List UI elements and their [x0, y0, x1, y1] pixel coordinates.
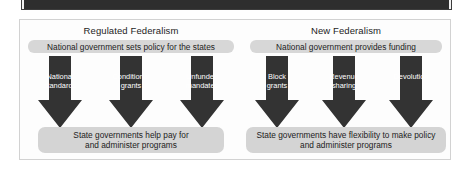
- arrow-revenue-sharing: Revenue sharing: [322, 56, 366, 128]
- top-dark-band-fill: [24, 0, 449, 9]
- diagram-page: Regulated Federalism National government…: [0, 0, 471, 175]
- down-arrow-icon: [322, 56, 366, 128]
- figure-frame: Regulated Federalism National government…: [19, 19, 451, 160]
- down-arrow-icon: [255, 56, 299, 128]
- arrow-devolution: Devolution: [389, 56, 433, 128]
- top-dark-band: [21, 0, 452, 10]
- arrow-unfunded-mandates: Unfunded mandates: [180, 56, 224, 128]
- arrow-national-standards: National standards: [38, 56, 82, 128]
- down-arrow-icon: [38, 56, 82, 128]
- top-band-box-new: National government provides funding: [250, 40, 442, 53]
- outcome-box-new: State governments have flexibility to ma…: [246, 127, 446, 153]
- down-arrow-icon: [389, 56, 433, 128]
- panel-title-new-federalism: New Federalism: [242, 25, 450, 36]
- arrow-conditional-grants: Conditional grants: [109, 56, 153, 128]
- down-arrow-icon: [180, 56, 224, 128]
- panel-title-regulated-federalism: Regulated Federalism: [20, 25, 242, 36]
- panel-regulated-federalism: Regulated Federalism National government…: [20, 20, 242, 159]
- outcome-box-regulated: State governments help pay for and admin…: [38, 127, 224, 153]
- arrow-block-grants: Block grants: [255, 56, 299, 128]
- panel-new-federalism: New Federalism National government provi…: [242, 20, 450, 159]
- top-band-box-regulated: National government sets policy for the …: [28, 40, 234, 53]
- down-arrow-icon: [109, 56, 153, 128]
